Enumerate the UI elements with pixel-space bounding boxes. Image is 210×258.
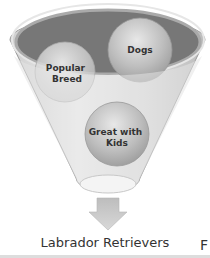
- result-label: Labrador Retrievers: [0, 235, 210, 250]
- funnel-spout: [80, 175, 136, 193]
- label-dogs: Dogs: [127, 45, 152, 55]
- edge-fragment: F: [200, 237, 208, 253]
- down-arrow-icon: [89, 198, 127, 230]
- label-popular-breed: Popular Breed: [46, 63, 88, 84]
- funnel-diagram: Dogs Popular Breed Great with Kids: [0, 0, 210, 258]
